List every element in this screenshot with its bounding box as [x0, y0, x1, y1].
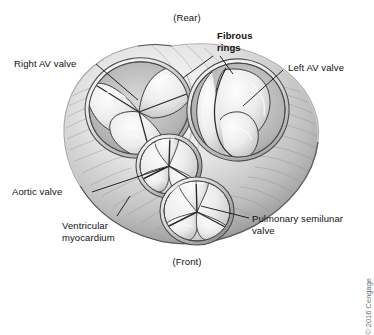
aortic-valve-label: Aortic valve — [12, 186, 92, 198]
left-av-valve-label: Left AV valve — [288, 62, 374, 74]
copyright-notice: © 2016 Cengage — [364, 278, 373, 335]
right-av-valve-label: Right AV valve — [14, 58, 106, 70]
front-orientation-label: (Front) — [150, 256, 224, 268]
pulmonary-semilunar-valve-label: Pulmonary semilunar valve — [252, 213, 368, 236]
fibrous-rings-label: Fibrous rings — [217, 30, 283, 53]
ventricular-myocardium-label: Ventricular myocardium — [62, 220, 152, 243]
rear-orientation-label: (Rear) — [150, 12, 224, 24]
